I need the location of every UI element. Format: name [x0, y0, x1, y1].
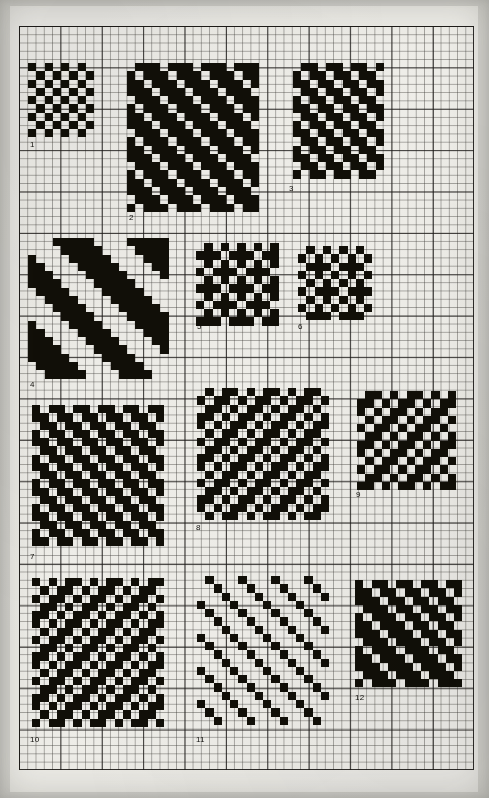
draft-cell-empty — [152, 296, 160, 304]
draft-cell-empty — [53, 129, 61, 137]
draft-cell-filled — [135, 63, 143, 71]
draft-cell-filled — [448, 391, 456, 399]
draft-cell-filled — [32, 405, 40, 413]
draft-cell-empty — [280, 667, 288, 675]
draft-cell-empty — [214, 634, 222, 642]
draft-cell-empty — [144, 288, 152, 296]
draft-cell-filled — [396, 621, 404, 629]
draft-cell-filled — [348, 271, 356, 279]
draft-cell-filled — [193, 154, 201, 162]
draft-cell-filled — [53, 279, 61, 287]
draft-cell-filled — [201, 96, 209, 104]
draft-cell-filled — [69, 312, 77, 320]
draft-cell-empty — [376, 96, 384, 104]
draft-cell-filled — [280, 462, 288, 470]
draft-cell-filled — [243, 137, 251, 145]
draft-cell-empty — [357, 391, 365, 399]
draft-cell-empty — [251, 187, 259, 195]
draft-cell-filled — [127, 238, 135, 246]
draft-cell-filled — [376, 162, 384, 170]
draft-cell-filled — [106, 685, 114, 693]
draft-cell-filled — [185, 195, 193, 203]
draft-cell-filled — [237, 251, 245, 259]
draft-cell-filled — [357, 465, 365, 473]
draft-cell-filled — [357, 449, 365, 457]
draft-cell-filled — [82, 652, 90, 660]
draft-cell-filled — [177, 204, 185, 212]
draft-cell-filled — [156, 578, 164, 586]
draft-cell-filled — [288, 454, 296, 462]
draft-cell-filled — [407, 457, 415, 465]
draft-cell-empty — [255, 495, 263, 503]
draft-cell-filled — [90, 488, 98, 496]
draft-cell-filled — [53, 121, 61, 129]
draft-cell-empty — [222, 601, 230, 609]
draft-cell-filled — [160, 204, 168, 212]
draft-cell-empty — [348, 279, 356, 287]
draft-cell-filled — [313, 504, 321, 512]
draft-cell-filled — [123, 479, 131, 487]
draft-cell-filled — [36, 121, 44, 129]
draft-cell-empty — [318, 113, 326, 121]
draft-cell-filled — [390, 457, 398, 465]
draft-cell-empty — [148, 636, 156, 644]
draft-cell-filled — [86, 238, 94, 246]
draft-cell-filled — [28, 279, 36, 287]
draft-cell-filled — [438, 597, 446, 605]
draft-cell-filled — [298, 287, 306, 295]
draft-cell-empty — [331, 312, 339, 320]
draft-cell-filled — [139, 719, 147, 727]
draft-cell-empty — [388, 671, 396, 679]
draft-cell-filled — [49, 479, 57, 487]
draft-cell-empty — [255, 584, 263, 592]
draft-cell-empty — [135, 329, 143, 337]
draft-cell-empty — [304, 593, 312, 601]
draft-cell-filled — [263, 388, 271, 396]
draft-cell-filled — [94, 263, 102, 271]
draft-cell-filled — [313, 512, 321, 520]
draft-cell-filled — [339, 246, 347, 254]
draft-cell-filled — [57, 628, 65, 636]
draft-cell-filled — [315, 287, 323, 295]
draft-cell-filled — [221, 309, 229, 317]
draft-cell-filled — [321, 626, 329, 634]
draft-cell-empty — [197, 405, 205, 413]
draft-cell-filled — [222, 396, 230, 404]
draft-cell-empty — [446, 588, 454, 596]
draft-cell-filled — [127, 113, 135, 121]
draft-cell-filled — [65, 463, 73, 471]
draft-cell-empty — [226, 129, 234, 137]
draft-cell-filled — [156, 611, 164, 619]
draft-cell-filled — [98, 710, 106, 718]
draft-cell-empty — [263, 717, 271, 725]
draft-cell-filled — [32, 488, 40, 496]
draft-cell-empty — [57, 603, 65, 611]
draft-cell-filled — [218, 104, 226, 112]
draft-cell-empty — [205, 683, 213, 691]
draft-cell-empty — [226, 63, 234, 71]
draft-cell-empty — [238, 487, 246, 495]
draft-number-label: 10 — [30, 736, 39, 744]
draft-cell-empty — [201, 137, 209, 145]
draft-cell-filled — [343, 146, 351, 154]
draft-cell-filled — [323, 296, 331, 304]
draft-cell-empty — [98, 702, 106, 710]
draft-cell-filled — [69, 255, 77, 263]
draft-cell-filled — [210, 96, 218, 104]
draft-cell-filled — [351, 63, 359, 71]
draft-cell-empty — [296, 495, 304, 503]
draft-cell-empty — [90, 455, 98, 463]
draft-cell-filled — [359, 146, 367, 154]
draft-cell-empty — [131, 471, 139, 479]
draft-cell-empty — [144, 337, 152, 345]
draft-cell-filled — [296, 462, 304, 470]
draft-cell-filled — [339, 312, 347, 320]
draft-cell-filled — [152, 170, 160, 178]
draft-cell-filled — [78, 238, 86, 246]
draft-cell-filled — [413, 597, 421, 605]
draft-cell-empty — [222, 617, 230, 625]
draft-cell-empty — [238, 667, 246, 675]
draft-cell-filled — [69, 88, 77, 96]
draft-cell-empty — [205, 634, 213, 642]
draft-cell-empty — [214, 708, 222, 716]
